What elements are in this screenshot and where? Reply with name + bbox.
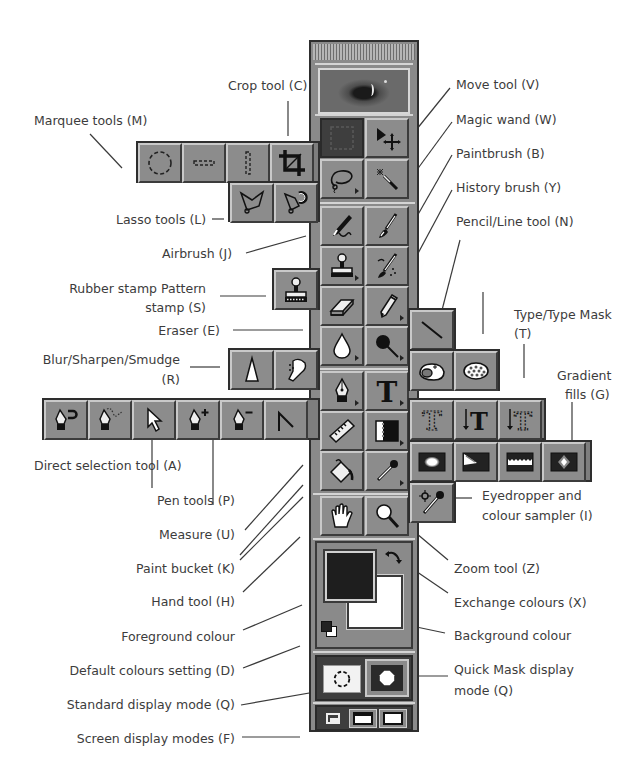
pattern-stamp-icon	[281, 275, 311, 305]
add-anchor-point-button[interactable]	[176, 400, 220, 440]
flyout-indicator	[355, 400, 359, 406]
svg-text:T: T	[514, 407, 532, 435]
burn-hand-tool-button[interactable]	[410, 351, 454, 391]
line-icon	[417, 315, 447, 345]
blur-drop-icon	[327, 331, 357, 361]
foreground-colour-swatch[interactable]	[325, 551, 375, 601]
label-pen-tools: Pen tools (P)	[80, 493, 235, 508]
magnetic-lasso-button[interactable]	[274, 183, 318, 223]
label-zoom-tool: Zoom tool (Z)	[454, 561, 540, 576]
convert-point-button[interactable]	[264, 400, 308, 440]
full-screen-mode-button[interactable]	[379, 709, 407, 728]
rectangle-marquee-icon	[327, 123, 357, 153]
pen-tools-flyout	[42, 398, 320, 440]
polygon-lasso-button[interactable]	[230, 183, 274, 223]
hand-tool-button[interactable]	[320, 496, 364, 536]
label-quick-mask-line2: mode (Q)	[454, 683, 513, 698]
flyout-indicator	[400, 315, 404, 321]
label-default-colours: Default colours setting (D)	[30, 663, 235, 678]
magic-wand-tool-button[interactable]	[365, 159, 409, 199]
marquee-tool-button[interactable]	[320, 118, 364, 158]
measure-tool-button[interactable]	[320, 411, 364, 451]
exchange-colours-icon[interactable]	[383, 547, 405, 569]
magnetic-pen-icon	[51, 405, 81, 435]
flyout-indicator	[355, 188, 359, 194]
blur-tool-button[interactable]	[320, 326, 364, 366]
eyedropper-tool-button[interactable]	[365, 451, 409, 491]
svg-text:T: T	[470, 407, 488, 435]
eraser-tool-button[interactable]	[320, 286, 364, 326]
diamond-gradient-button[interactable]	[542, 442, 586, 482]
pencil-tool-button[interactable]	[365, 286, 409, 326]
rubber-stamp-tool-button[interactable]	[320, 246, 364, 286]
adobe-eye-logo[interactable]	[318, 68, 410, 114]
label-rubber-stamp-line2: stamp (S)	[66, 300, 206, 315]
marquee-flyout	[136, 141, 320, 183]
solid-circle-icon	[378, 669, 396, 687]
standard-screen-mode-button[interactable]	[323, 710, 343, 727]
move-icon	[372, 123, 402, 153]
elliptical-marquee-button[interactable]	[138, 143, 182, 183]
burn-icon	[372, 331, 402, 361]
freeform-pen-icon	[95, 405, 125, 435]
sharpen-tool-button[interactable]	[230, 350, 274, 390]
toning-tools-flyout	[408, 349, 500, 391]
label-eyedropper-line2: colour sampler (I)	[482, 508, 593, 523]
zoom-tool-button[interactable]	[365, 496, 409, 536]
vertical-type-tool-button[interactable]: T	[454, 400, 498, 440]
type-mask-tool-button[interactable]: T	[410, 400, 454, 440]
pattern-stamp-button[interactable]	[274, 270, 318, 310]
diamond-gradient-icon	[549, 447, 579, 477]
quick-mask-mode-button[interactable]	[365, 659, 409, 697]
ruler-icon	[327, 416, 357, 446]
label-rubber-stamp-line1: Rubber stamp Pattern	[66, 281, 206, 296]
label-direct-selection: Direct selection tool (A)	[34, 458, 182, 473]
smudge-tool-button[interactable]	[274, 350, 318, 390]
label-standard-display-mode: Standard display mode (Q)	[30, 697, 235, 712]
burn-tool-button[interactable]	[365, 326, 409, 366]
type-tool-button[interactable]: T	[365, 371, 409, 411]
single-row-marquee-button[interactable]	[182, 143, 226, 183]
lasso-tool-button[interactable]	[320, 159, 364, 199]
airbrush-tool-button[interactable]	[320, 206, 364, 246]
default-colours-icon[interactable]	[321, 621, 337, 637]
paintbrush-tool-button[interactable]	[365, 206, 409, 246]
magnetic-pen-button[interactable]	[44, 400, 88, 440]
label-move-tool: Move tool (V)	[456, 77, 539, 92]
vertical-type-mask-tool-button[interactable]: T	[498, 400, 542, 440]
pen-tool-button[interactable]	[320, 371, 364, 411]
colour-swatches-area	[315, 541, 413, 649]
pattern-stamp-flyout	[272, 268, 320, 310]
label-blur-sharpen-smudge-line2: (R)	[30, 372, 180, 387]
label-hand-tool: Hand tool (H)	[80, 594, 235, 609]
move-tool-button[interactable]	[365, 118, 409, 158]
angle-gradient-button[interactable]	[454, 442, 498, 482]
direct-selection-tool-button[interactable]	[132, 400, 176, 440]
type-t-icon: T	[372, 376, 402, 406]
gradient-tool-button[interactable]	[365, 411, 409, 451]
paint-bucket-tool-button[interactable]	[320, 451, 364, 491]
label-paint-bucket: Paint bucket (K)	[80, 561, 235, 576]
history-brush-tool-button[interactable]	[365, 246, 409, 286]
single-row-marquee-icon	[189, 148, 219, 178]
crop-tool-button[interactable]	[270, 143, 314, 183]
colour-sampler-button[interactable]	[410, 483, 454, 523]
colour-sampler-flyout	[408, 481, 456, 523]
sponge-tool-button[interactable]	[454, 351, 498, 391]
label-eyedropper-line1: Eyedropper and	[482, 488, 582, 503]
radial-gradient-button[interactable]	[410, 442, 454, 482]
reflected-gradient-button[interactable]	[498, 442, 542, 482]
single-column-marquee-button[interactable]	[226, 143, 270, 183]
gradient-icon	[372, 416, 402, 446]
flyout-indicator	[400, 355, 404, 361]
delete-anchor-point-button[interactable]	[220, 400, 264, 440]
label-crop-tool: Crop tool (C)	[228, 78, 307, 93]
line-tool-button[interactable]	[410, 310, 454, 350]
label-background-colour: Background colour	[454, 628, 571, 643]
standard-mode-button[interactable]	[323, 665, 361, 693]
full-screen-menu-mode-button[interactable]	[349, 709, 377, 728]
toolbox-title-bar[interactable]	[313, 44, 415, 60]
paint-bucket-icon	[327, 456, 357, 486]
freeform-pen-button[interactable]	[88, 400, 132, 440]
magnifier-icon	[372, 501, 402, 531]
